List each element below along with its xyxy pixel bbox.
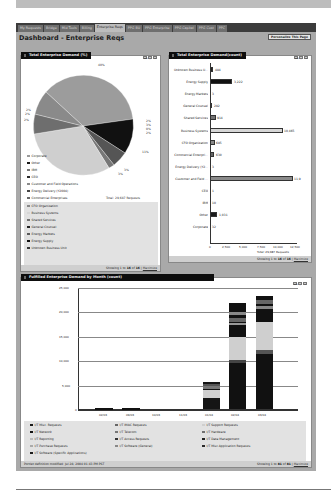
maximize-link[interactable]: Maximize [294, 257, 308, 261]
bar-category-label: Energy Delivery (Y2... [170, 165, 208, 169]
pie-panel-footer: Showing 1 to 16 of 16 | Maximize [21, 265, 160, 271]
bar-category-label: Commercial Enterpri... [170, 153, 208, 157]
month-legend-item: I/T Support Requests [202, 423, 238, 427]
close-icon[interactable]: x [303, 282, 307, 285]
bar-segment [256, 350, 273, 354]
pie-pct-label: 11% [142, 150, 149, 154]
bar-segment [203, 390, 220, 398]
legend-swatch [202, 424, 205, 427]
month-legend-item: I/T IMAC Requests [115, 423, 146, 427]
legend-swatch [27, 183, 30, 186]
legend-swatch [27, 212, 30, 215]
pie-panel-icons: edit _ x [143, 56, 157, 59]
bar-segment [229, 318, 246, 322]
browser-top-strip [16, 0, 331, 8]
tab-enterprise-reqs[interactable]: Enterprise Reqs [95, 24, 125, 32]
legend-swatch [27, 247, 30, 250]
bar [210, 176, 293, 181]
minimize-icon[interactable]: _ [148, 56, 152, 59]
pie-legend-item: IBM [27, 168, 37, 172]
bar-value: 1,031 [219, 213, 228, 217]
bar [210, 140, 215, 145]
tab-my-requests[interactable]: My Requests [18, 25, 43, 32]
bar-x-axis [210, 243, 297, 244]
portlet-modified-text: Portlet definition modified: Jul 28, 200… [24, 461, 104, 467]
edit-icon[interactable]: edit [294, 56, 298, 59]
tab-ppg-enterprise[interactable]: PPG Enterprise [143, 25, 172, 32]
pie-total-label: Total: 29,687 Requests [106, 196, 140, 200]
bar-category-label: Shared Services [170, 116, 208, 120]
legend-swatch [30, 445, 33, 448]
bar-category-label: Unknown Business U... [170, 68, 208, 72]
legend-swatch [202, 431, 205, 434]
bar-value: 3 [212, 165, 214, 169]
tab-ppg-cost[interactable]: PPG Cost [197, 25, 216, 32]
x-tick: 0 [209, 245, 211, 249]
pie-legend-item: General Counsel [27, 225, 56, 229]
legend-swatch [27, 190, 30, 193]
x-tick: 02/04 [231, 413, 239, 417]
tab-bar: My Requests Bridge Mid Tools Billing Ent… [16, 23, 316, 32]
minimize-icon[interactable]: _ [298, 282, 302, 285]
legend-swatch [27, 226, 30, 229]
tab-ppc[interactable]: PPC [217, 25, 227, 32]
legend-swatch [27, 205, 30, 208]
legend-swatch [30, 438, 33, 441]
pie-pct-label: 3% [118, 172, 123, 176]
tab-billing[interactable]: Billing [80, 25, 94, 32]
bar [210, 103, 212, 108]
bar-segment [203, 386, 220, 389]
y-tick: 5,000 [62, 384, 70, 388]
y-tick: 20,000 [59, 310, 69, 314]
pie-pct-label: 2% [24, 118, 29, 122]
bar-panel-footer: Showing 1 to 16 of 16 | Maximize [169, 256, 311, 262]
tab-ppg-capital[interactable]: PPG Capital [173, 25, 196, 32]
tab-bridge[interactable]: Bridge [44, 25, 59, 32]
legend-swatch [115, 431, 118, 434]
month-legend-item: I/T Data Management [202, 437, 239, 441]
legend-swatch [27, 176, 30, 179]
legend-swatch [115, 445, 118, 448]
month-legend-item: I/T Telecom [115, 430, 136, 434]
legend-swatch [27, 155, 30, 158]
bar-segment [229, 323, 246, 325]
maximize-link[interactable]: Maximize [143, 266, 157, 270]
legend-swatch [202, 445, 205, 448]
x-tick: 12,500 [290, 245, 300, 249]
bar-segment [229, 360, 246, 363]
x-tick: 03/04 [258, 413, 266, 417]
month-legend-item: I/T Purchase Requests [30, 444, 68, 448]
edit-icon[interactable]: edit [293, 282, 297, 285]
tab-mid-tools[interactable]: Mid Tools [60, 25, 79, 32]
pie-legend-item: Corporate [27, 154, 47, 158]
minimize-icon[interactable]: _ [299, 56, 303, 59]
legend-swatch [115, 438, 118, 441]
bar-segment [256, 322, 273, 350]
pie-pct-label: 2% [25, 112, 30, 116]
close-icon[interactable]: x [304, 56, 308, 59]
bar-category-label: CFO Organization [170, 141, 208, 145]
bar-value: 914 [217, 116, 223, 120]
personalize-page-button[interactable]: Personalize This Page [268, 34, 311, 40]
bar-value: 11,9 [294, 177, 301, 181]
legend-swatch [27, 219, 30, 222]
y-tick: 15,000 [59, 335, 69, 339]
tab-ppg-bu[interactable]: PPG BU [126, 25, 142, 32]
legend-swatch [27, 197, 30, 200]
bar-value: 685 [216, 141, 222, 145]
x-tick: 11/03 [179, 413, 187, 417]
bar [210, 212, 217, 217]
pie-chart [21, 64, 162, 184]
month-legend-item: I/T Software (Specific Applications) [30, 451, 87, 455]
month-panel-footer: Portlet definition modified: Jul 28, 200… [21, 461, 311, 467]
close-icon[interactable]: x [153, 56, 157, 59]
bar [210, 67, 213, 72]
bar-value: 32 [212, 225, 216, 229]
page-title: Dashboard - Enterprise Reqs [19, 34, 124, 42]
legend-swatch [27, 240, 30, 243]
edit-icon[interactable]: edit [143, 56, 147, 59]
maximize-link[interactable]: Maximize [294, 462, 308, 466]
page-bottom-divider [16, 489, 331, 490]
month-legend-item: I/T Misc Application Requests [202, 444, 250, 448]
bar [210, 152, 214, 157]
